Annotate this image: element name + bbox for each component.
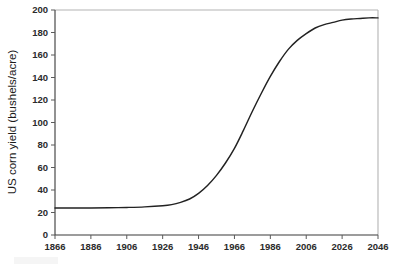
y-tick-label: 0	[43, 229, 48, 240]
x-tick-label: 2006	[296, 241, 317, 252]
x-tick-label: 1946	[188, 241, 209, 252]
y-tick-label: 200	[32, 4, 48, 15]
x-tick-label: 2026	[332, 241, 353, 252]
x-tick-label: 2046	[367, 241, 388, 252]
x-tick-label: 1986	[260, 241, 281, 252]
y-tick-label: 60	[37, 162, 48, 173]
x-tick-label: 1886	[80, 241, 101, 252]
y-axis-title: US corn yield (bushels/acre)	[6, 50, 18, 195]
scan-artifact	[14, 257, 58, 264]
chart-background	[0, 0, 398, 269]
x-tick-label: 1926	[152, 241, 173, 252]
x-tick-label: 1906	[116, 241, 137, 252]
y-tick-label: 140	[32, 72, 48, 83]
y-tick-label: 120	[32, 94, 48, 105]
y-tick-label: 100	[32, 117, 48, 128]
x-tick-label: 1966	[224, 241, 245, 252]
y-tick-label: 20	[37, 207, 48, 218]
y-tick-label: 160	[32, 49, 48, 60]
y-tick-label: 80	[37, 139, 48, 150]
y-tick-label: 180	[32, 27, 48, 38]
x-tick-label: 1866	[44, 241, 65, 252]
line-chart: 1866188619061926194619661986200620262046…	[0, 0, 398, 269]
y-tick-label: 40	[37, 184, 48, 195]
chart-figure: 1866188619061926194619661986200620262046…	[0, 0, 398, 269]
